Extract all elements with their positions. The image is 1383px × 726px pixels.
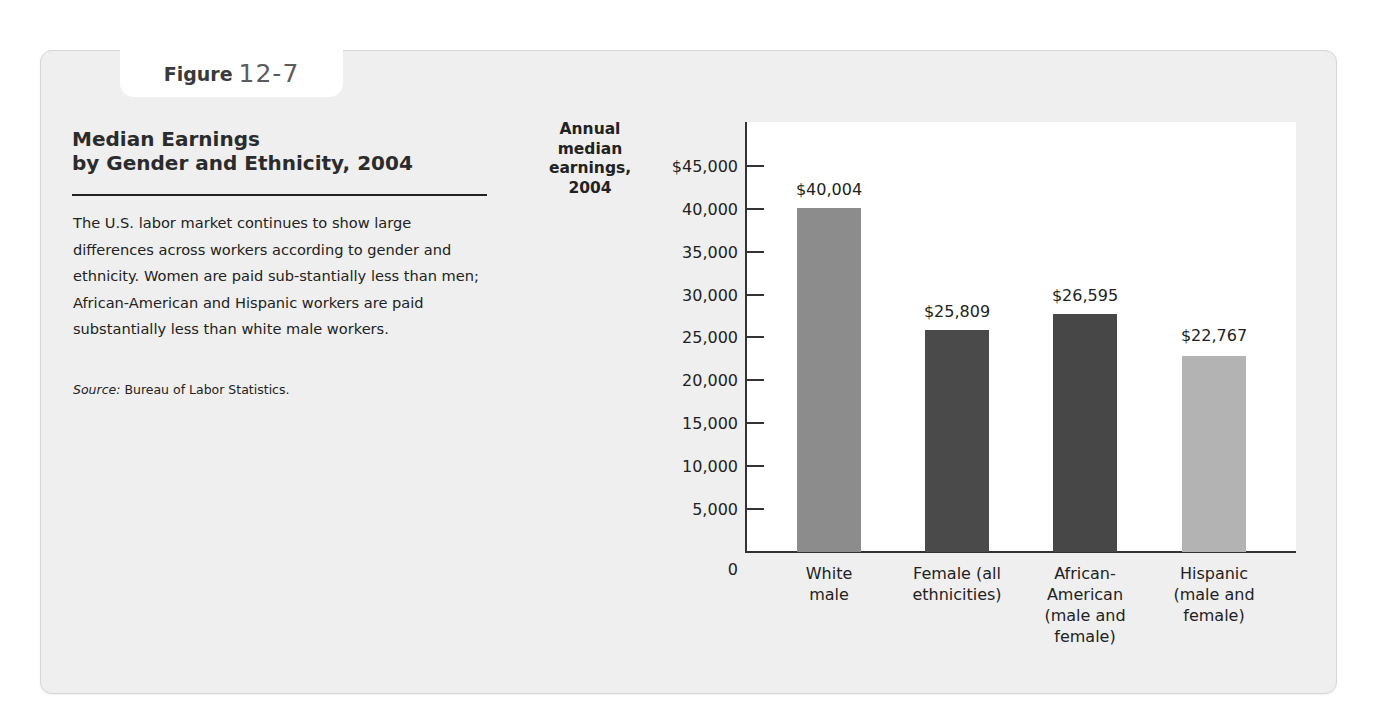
category-label-line: female) xyxy=(1149,605,1279,626)
y-tick-label: 40,000 xyxy=(682,200,738,219)
y-axis-title-line: Annual xyxy=(540,120,640,140)
figure-title: Median Earnings by Gender and Ethnicity,… xyxy=(72,127,492,175)
category-label-african-american: African- American (male and female) xyxy=(1020,563,1150,647)
y-tick-label: 25,000 xyxy=(682,328,738,347)
category-label-white-male: White male xyxy=(764,563,894,605)
category-label-line: American xyxy=(1020,584,1150,605)
bar-value-label: $40,004 xyxy=(769,180,889,199)
source-text: Bureau of Labor Statistics. xyxy=(120,382,289,397)
category-label-line: (male and xyxy=(1020,605,1150,626)
bar-value-label: $26,595 xyxy=(1025,286,1145,305)
y-tick xyxy=(747,379,764,381)
title-divider xyxy=(72,194,487,196)
y-tick xyxy=(747,165,764,167)
y-tick xyxy=(747,336,764,338)
y-tick-label: 35,000 xyxy=(682,243,738,262)
y-axis-title: Annual median earnings, 2004 xyxy=(540,120,640,198)
figure-tab: Figure 12-7 xyxy=(120,50,343,97)
y-axis-title-line: 2004 xyxy=(540,179,640,199)
y-tick xyxy=(747,465,764,467)
y-tick xyxy=(747,294,764,296)
category-label-line: Female (all xyxy=(892,563,1022,584)
source-label: Source: xyxy=(73,382,120,397)
figure-source: Source: Bureau of Labor Statistics. xyxy=(73,382,289,397)
y-tick xyxy=(747,251,764,253)
y-tick-label: 30,000 xyxy=(682,286,738,305)
category-label-line: male xyxy=(764,584,894,605)
bar-value-label: $25,809 xyxy=(897,302,1017,321)
category-label-line: (male and xyxy=(1149,584,1279,605)
bar-value-label: $22,767 xyxy=(1154,326,1274,345)
y-tick-label: 20,000 xyxy=(682,371,738,390)
y-tick-label: 5,000 xyxy=(692,500,738,519)
category-label-line: Hispanic xyxy=(1149,563,1279,584)
category-label-line: female) xyxy=(1020,626,1150,647)
figure-title-line-1: Median Earnings xyxy=(72,127,492,151)
y-tick xyxy=(747,508,764,510)
category-label-female: Female (all ethnicities) xyxy=(892,563,1022,605)
y-axis-title-line: median xyxy=(540,140,640,160)
y-tick-label: 15,000 xyxy=(682,414,738,433)
figure-number: 12-7 xyxy=(239,59,300,88)
y-axis-title-line: earnings, xyxy=(540,159,640,179)
category-label-line: White xyxy=(764,563,894,584)
figure-title-line-2: by Gender and Ethnicity, 2004 xyxy=(72,151,492,175)
bar-white-male xyxy=(797,208,861,552)
figure-word: Figure xyxy=(164,63,233,85)
bar-african-american xyxy=(1053,314,1117,552)
figure-caption: The U.S. labor market continues to show … xyxy=(73,210,493,343)
category-label-line: African- xyxy=(1020,563,1150,584)
y-tick xyxy=(747,422,764,424)
bar-hispanic xyxy=(1182,356,1246,552)
y-tick-label: 0 xyxy=(728,560,738,579)
y-tick xyxy=(747,208,764,210)
y-tick-label: $45,000 xyxy=(672,157,738,176)
category-label-line: ethnicities) xyxy=(892,584,1022,605)
y-tick-label: 10,000 xyxy=(682,457,738,476)
category-label-hispanic: Hispanic (male and female) xyxy=(1149,563,1279,626)
bar-female xyxy=(925,330,989,552)
